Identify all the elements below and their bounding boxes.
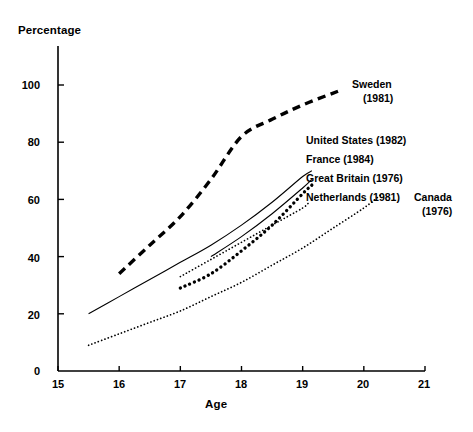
data-series-group	[89, 91, 383, 346]
series-line-canada	[89, 194, 383, 346]
series-line-netherlands	[180, 202, 308, 276]
plot-area	[0, 0, 473, 432]
series-line-france	[211, 179, 312, 256]
series-line-great-britain	[180, 185, 312, 288]
series-line-sweden	[119, 91, 339, 274]
chart-figure: Percentage Age 100 80 60 40 20 0 15 16 1…	[0, 0, 473, 432]
axes	[58, 46, 425, 371]
